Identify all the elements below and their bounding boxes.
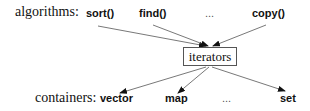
algorithm-copy: copy() bbox=[252, 7, 285, 19]
algorithm-find: find() bbox=[139, 7, 166, 19]
arrow-find-to-iterators bbox=[153, 25, 208, 46]
iterators-label: iterators bbox=[189, 49, 232, 65]
container-set: set bbox=[280, 92, 296, 104]
container-ellipsis: ... bbox=[222, 92, 231, 104]
arrow-sort-to-iterators bbox=[98, 26, 206, 46]
arrow-copy-to-iterators bbox=[213, 25, 266, 46]
arrow-iterators-to-set bbox=[212, 67, 285, 91]
algorithm-ellipsis: ... bbox=[205, 7, 214, 19]
container-vector: vector bbox=[100, 92, 133, 104]
algorithm-sort: sort() bbox=[86, 7, 114, 19]
iterators-box: iterators bbox=[183, 47, 237, 66]
algorithms-label: algorithms: bbox=[15, 4, 79, 20]
containers-label: containers: bbox=[35, 90, 96, 106]
container-map: map bbox=[165, 92, 188, 104]
